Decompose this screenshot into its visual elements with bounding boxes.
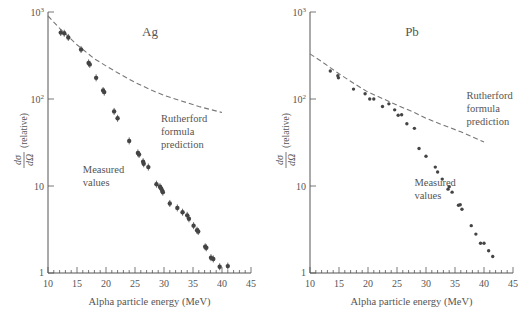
x-tick-label: 15	[334, 278, 344, 289]
data-point	[88, 62, 92, 66]
data-point	[405, 122, 408, 125]
y-axis-label: dσdΩ(relative)	[274, 113, 297, 168]
x-tick-label: 10	[305, 278, 315, 289]
data-point	[400, 113, 403, 116]
data-point	[115, 116, 119, 120]
y-tick-label: 1	[39, 267, 44, 278]
annotation-text: Rutherford	[161, 113, 208, 124]
y-tick-label: 103	[293, 6, 307, 18]
x-tick-label: 45	[508, 278, 518, 289]
x-tick-label: 35	[188, 278, 198, 289]
data-point	[372, 97, 375, 100]
data-point	[470, 224, 473, 227]
x-tick-label: 10	[43, 278, 53, 289]
annotation-text: formula	[467, 103, 501, 114]
x-tick-label: 20	[363, 278, 373, 289]
data-point	[180, 210, 184, 214]
data-point	[175, 206, 179, 210]
data-point	[381, 105, 384, 108]
svg-text:dσ: dσ	[274, 154, 285, 165]
x-tick-label: 20	[101, 278, 111, 289]
x-tick-label: 40	[217, 278, 227, 289]
svg-text:(relative): (relative)	[281, 113, 292, 148]
y-axis-label: dσdΩ(relative)	[12, 113, 35, 168]
data-point	[168, 201, 172, 205]
data-point	[137, 152, 141, 156]
data-point	[491, 255, 494, 258]
annotation-text: values	[83, 177, 110, 188]
rutherford-curve	[310, 54, 484, 142]
y-tick-label: 103	[31, 6, 45, 18]
data-point	[62, 31, 66, 35]
y-tick-label: 102	[293, 93, 307, 105]
x-axis-label: Alpha particle energy (MeV)	[351, 296, 473, 308]
svg-text:dΩ: dΩ	[24, 154, 35, 166]
x-tick-label: 30	[159, 278, 169, 289]
data-point	[450, 190, 453, 193]
chart-ag: 1015202530354045110102103AgAlpha particl…	[12, 6, 256, 308]
data-point	[459, 203, 462, 206]
annotation-text: formula	[161, 126, 195, 137]
annotation-text: Measured	[414, 177, 456, 188]
data-point	[352, 87, 355, 90]
data-point	[127, 139, 131, 143]
x-tick-label: 35	[450, 278, 460, 289]
data-point	[417, 147, 420, 150]
data-point	[337, 76, 340, 79]
data-point	[396, 114, 399, 117]
data-point	[211, 257, 215, 261]
x-tick-label: 25	[130, 278, 140, 289]
data-point	[482, 242, 485, 245]
rutherford-curve	[48, 16, 222, 113]
data-point	[363, 92, 366, 95]
data-point	[393, 108, 396, 111]
x-tick-label: 15	[72, 278, 82, 289]
data-point	[226, 264, 230, 268]
svg-text:dσ: dσ	[12, 154, 23, 165]
data-point	[146, 165, 150, 169]
data-point	[329, 69, 332, 72]
data-point	[479, 242, 482, 245]
data-point	[187, 217, 191, 221]
annotation-text: values	[414, 190, 441, 201]
annotation-text: Rutherford	[467, 90, 514, 101]
chart-pb: 1015202530354045110102103PbAlpha particl…	[274, 6, 518, 308]
data-point	[79, 47, 83, 51]
data-point	[424, 155, 427, 158]
x-axis-label: Alpha particle energy (MeV)	[89, 296, 211, 308]
x-tick-label: 45	[246, 278, 256, 289]
data-point	[474, 232, 477, 235]
data-point	[460, 208, 463, 211]
data-point	[217, 265, 221, 269]
data-point	[94, 76, 98, 80]
annotation-text: Measured	[83, 164, 125, 175]
y-tick-label: 102	[31, 93, 45, 105]
data-point	[154, 182, 158, 186]
chart-title: Ag	[142, 24, 158, 39]
x-tick-label: 25	[392, 278, 402, 289]
x-tick-label: 30	[421, 278, 431, 289]
svg-text:dΩ: dΩ	[286, 154, 297, 166]
annotation-text: prediction	[161, 139, 204, 150]
data-point	[434, 165, 437, 168]
data-point	[196, 229, 200, 233]
data-point	[387, 102, 390, 105]
rutherford-scattering-charts: 1015202530354045110102103AgAlpha particl…	[0, 0, 524, 311]
data-point	[191, 223, 195, 227]
data-point	[204, 246, 208, 250]
data-point	[413, 127, 416, 130]
y-tick-label: 10	[34, 181, 44, 192]
data-point	[66, 35, 70, 39]
annotation-text: prediction	[467, 116, 510, 127]
y-tick-label: 1	[301, 267, 306, 278]
chart-title: Pb	[405, 24, 419, 39]
data-point	[112, 109, 116, 113]
data-point	[102, 90, 106, 94]
data-point	[436, 170, 439, 173]
data-point	[142, 162, 146, 166]
svg-text:(relative): (relative)	[19, 113, 30, 148]
data-point	[368, 97, 371, 100]
data-point	[487, 249, 490, 252]
x-tick-label: 40	[479, 278, 489, 289]
y-tick-label: 10	[296, 181, 306, 192]
